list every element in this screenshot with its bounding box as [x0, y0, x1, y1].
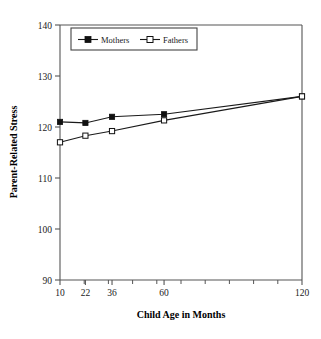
data-point-fathers-10	[57, 140, 62, 145]
x-tick-label: 10	[55, 288, 65, 298]
y-tick-label: 110	[38, 174, 52, 184]
y-tick-label: 130	[38, 72, 53, 82]
chart-figure: Parent-Related Stress Child Age in Month…	[0, 0, 321, 339]
legend-marker-fathers-open-square	[147, 37, 153, 43]
x-axis-ticks: 10223660120	[55, 280, 309, 298]
series-lines-group	[60, 96, 302, 142]
x-axis-title: Child Age in Months	[137, 309, 226, 320]
legend-marker-mothers-filled-square	[85, 37, 91, 43]
x-tick-label: 60	[159, 288, 169, 298]
y-axis-ticks: 90100110120130140	[38, 21, 60, 286]
data-point-fathers-22	[83, 133, 88, 138]
legend-entry-fathers: Fathers	[140, 35, 188, 45]
x-tick-label: 120	[295, 288, 310, 298]
series-line-mothers	[60, 96, 302, 123]
y-tick-label: 120	[38, 123, 53, 133]
data-point-fathers-60	[161, 118, 166, 123]
y-tick-label: 140	[38, 21, 53, 31]
x-axis-minor-ticks	[84, 280, 278, 284]
data-point-fathers-36	[109, 128, 114, 133]
y-axis-title: Parent-Related Stress	[8, 106, 19, 199]
data-point-mothers-36	[109, 114, 114, 119]
data-point-mothers-60	[161, 112, 166, 117]
chart-legend: Mothers Fathers	[71, 28, 197, 50]
parent-related-stress-line-chart: Parent-Related Stress Child Age in Month…	[0, 0, 321, 339]
series-markers-group	[57, 94, 304, 145]
x-tick-label: 36	[107, 288, 117, 298]
legend-label-fathers: Fathers	[163, 35, 188, 45]
y-tick-label: 100	[38, 225, 53, 235]
legend-label-mothers: Mothers	[101, 35, 129, 45]
x-tick-label: 22	[81, 288, 91, 298]
legend-entry-mothers: Mothers	[78, 35, 129, 45]
data-point-mothers-22	[83, 120, 88, 125]
y-tick-label: 90	[43, 276, 53, 286]
data-point-mothers-10	[57, 119, 62, 124]
series-line-fathers	[60, 96, 302, 142]
data-point-fathers-120	[299, 94, 304, 99]
